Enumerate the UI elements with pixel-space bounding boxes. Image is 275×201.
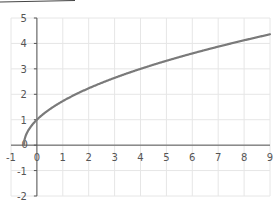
data-series-line: [24, 34, 270, 145]
x-tick-label: 2: [86, 152, 92, 163]
y-tick-label: -1: [17, 166, 27, 177]
y-tick-label: 3: [21, 64, 27, 75]
x-tick-label: -1: [6, 152, 16, 163]
x-tick-label: 8: [241, 152, 247, 163]
line-chart: -10123456789 -2-1012345: [0, 0, 275, 201]
gridlines: [11, 18, 270, 196]
y-tick-label: 5: [21, 13, 27, 24]
x-tick-label: 6: [189, 152, 195, 163]
x-tick-label: 7: [215, 152, 221, 163]
y-tick-label: 4: [21, 38, 27, 49]
y-tick-label: 1: [21, 115, 27, 126]
x-tick-label: 9: [267, 152, 273, 163]
x-tick-label: 0: [34, 152, 40, 163]
x-tick-label: 3: [111, 152, 117, 163]
y-tick-label: 2: [21, 89, 27, 100]
x-tick-label: 5: [163, 152, 169, 163]
x-tick-label: 1: [60, 152, 66, 163]
y-tick-label: -2: [17, 191, 27, 201]
y-axis-tick-labels: -2-1012345: [17, 13, 28, 201]
top-decorative-line: [0, 1, 75, 3]
x-axis-tick-labels: -10123456789: [6, 152, 273, 163]
x-tick-label: 4: [137, 152, 143, 163]
